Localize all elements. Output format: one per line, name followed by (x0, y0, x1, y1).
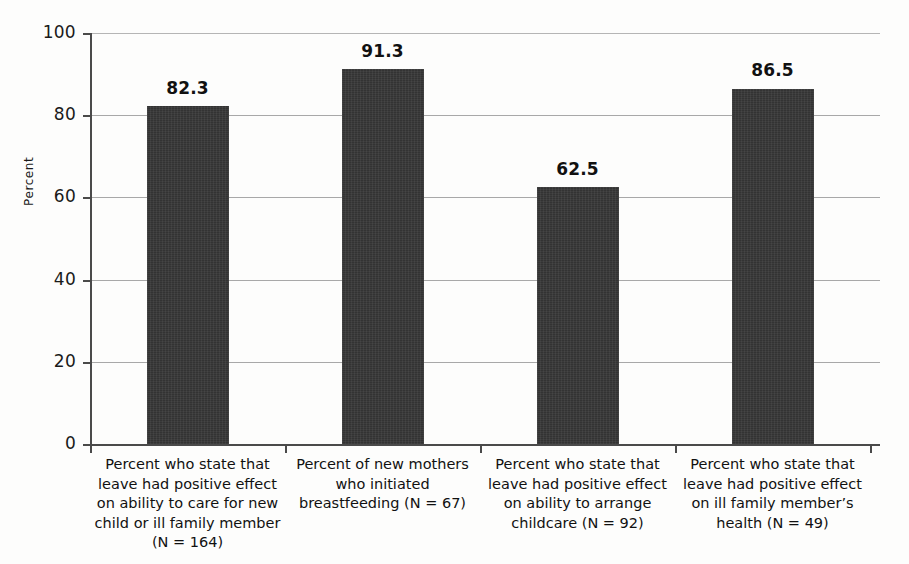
category-label-line: Percent of new mothers (289, 455, 476, 475)
category-label: Percent of new motherswho initiatedbreas… (285, 455, 480, 564)
category-label-line: on ability to arrange (484, 494, 671, 514)
category-label-line: who initiated (289, 475, 476, 495)
category-label-line: on ability to care for new (94, 494, 281, 514)
y-axis-label: 40 (30, 269, 76, 289)
x-axis-tick (870, 444, 872, 453)
category-label: Percent who state thatleave had positive… (675, 455, 870, 564)
category-label-line: leave had positive effect (679, 475, 866, 495)
x-axis-line (90, 444, 880, 446)
category-label: Percent who state thatleave had positive… (90, 455, 285, 564)
bar-value-label: 62.5 (528, 159, 628, 179)
gridline (90, 33, 880, 34)
y-axis-tick (83, 280, 90, 282)
bar-value-label: 91.3 (333, 41, 433, 61)
y-axis-label: 80 (30, 104, 76, 124)
bar[interactable] (537, 187, 619, 444)
bar[interactable] (147, 106, 229, 444)
y-axis-label: 100 (30, 22, 76, 42)
x-axis-tick (90, 444, 92, 453)
bar[interactable] (732, 89, 814, 445)
y-axis-label: 20 (30, 351, 76, 371)
category-label-line: childcare (N = 92) (484, 514, 671, 534)
y-axis-tick (83, 197, 90, 199)
y-axis-tick (83, 444, 90, 446)
category-label-line: Percent who state that (94, 455, 281, 475)
y-axis-label: 60 (30, 186, 76, 206)
category-label-line: leave had positive effect (484, 475, 671, 495)
category-label-line: Percent who state that (679, 455, 866, 475)
category-label-line: health (N = 49) (679, 514, 866, 534)
y-axis-tick (83, 33, 90, 35)
y-axis-tick (83, 115, 90, 117)
category-label: Percent who state thatleave had positive… (480, 455, 675, 564)
y-axis-line (90, 33, 92, 444)
x-axis-tick (285, 444, 287, 453)
category-label-line: on ill family member’s (679, 494, 866, 514)
x-axis-tick (480, 444, 482, 453)
bar-chart: Percent 100806040200 Percent who state t… (0, 0, 909, 564)
y-axis-label: 0 (30, 433, 76, 453)
category-label-line: leave had positive effect (94, 475, 281, 495)
y-axis-tick (83, 362, 90, 364)
category-label-line: breastfeeding (N = 67) (289, 494, 476, 514)
bar-value-label: 86.5 (723, 60, 823, 80)
category-label-line: child or ill family member (94, 514, 281, 534)
x-axis-tick (675, 444, 677, 453)
category-label-line: Percent who state that (484, 455, 671, 475)
bar-value-label: 82.3 (138, 78, 238, 98)
category-label-line: (N = 164) (94, 533, 281, 553)
bar[interactable] (342, 69, 424, 444)
category-label-row: Percent who state thatleave had positive… (90, 455, 870, 564)
